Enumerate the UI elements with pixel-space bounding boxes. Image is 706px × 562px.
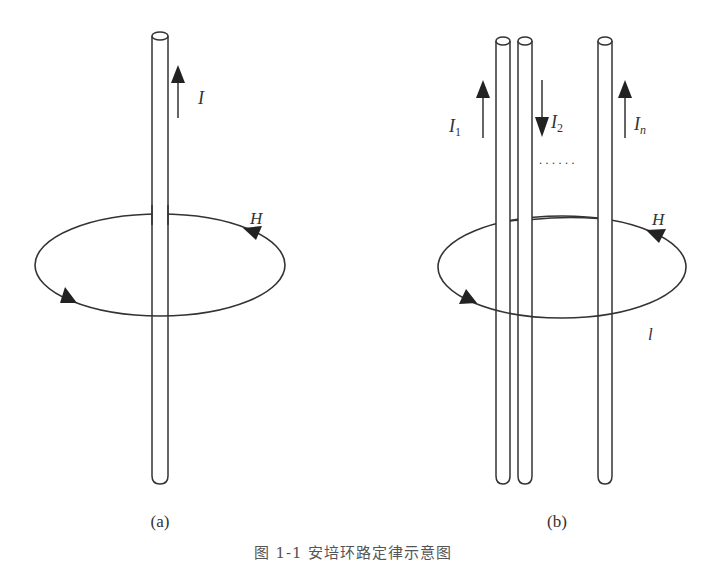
field-label-h: H <box>651 210 666 229</box>
current-arrow-up-icon <box>618 80 632 138</box>
current-label-i: I <box>197 88 205 108</box>
loop-direction-arrow-icon <box>60 287 77 303</box>
loop-b-back <box>438 216 686 267</box>
wire-b-1 <box>496 37 510 484</box>
panel-label-b: (b) <box>547 512 567 531</box>
current-arrow-up-icon <box>171 65 185 118</box>
loop-direction-arrow-icon <box>646 229 666 243</box>
wire-b-n <box>598 37 612 484</box>
path-label-l: l <box>648 325 653 344</box>
wire-b-2 <box>518 37 532 484</box>
figure-caption: 图 1-1 安培环路定律示意图 <box>0 541 706 562</box>
loop-b-front <box>438 267 686 318</box>
current-label-i2: I2 <box>550 112 563 135</box>
wire-a <box>152 32 168 484</box>
panel-b: I1 I2 In ...... H l (b) <box>438 37 686 531</box>
ellipsis-dots: ...... <box>539 153 578 167</box>
current-label-i1: I1 <box>448 116 461 139</box>
panel-label-a: (a) <box>151 512 170 531</box>
current-label-in: In <box>633 114 646 137</box>
current-arrow-down-icon <box>535 80 549 137</box>
current-arrow-up-icon <box>476 80 490 138</box>
loop-direction-arrow-icon <box>243 226 262 240</box>
panel-a: I H (a) <box>35 32 285 531</box>
field-label-h: H <box>249 209 264 228</box>
